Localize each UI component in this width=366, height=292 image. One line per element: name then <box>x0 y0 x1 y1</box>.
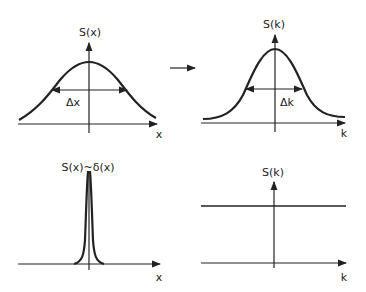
panel-top-left <box>18 43 157 133</box>
top-right-ylabel: S(k) <box>263 18 285 31</box>
bottom-left-ylabel: S(x)~δ(x) <box>61 161 114 174</box>
gaussian-curve <box>203 49 345 119</box>
top-left-width-label: Δx <box>66 96 80 109</box>
diagram-canvas <box>0 0 366 292</box>
top-left-xlabel: x <box>156 128 163 141</box>
bottom-right-xlabel: k <box>341 271 347 284</box>
panel-bottom-right <box>201 182 346 268</box>
top-right-xlabel: k <box>341 127 347 140</box>
bottom-left-xlabel: x <box>156 271 163 284</box>
gaussian-curve <box>19 62 156 120</box>
bottom-right-ylabel: S(k) <box>262 166 284 179</box>
fourier-diagram: S(x) x Δx S(k) k Δk S(x)~δ(x) x S(k) k <box>0 0 366 292</box>
panel-bottom-left <box>18 172 160 270</box>
top-right-width-label: Δk <box>280 96 294 109</box>
top-left-ylabel: S(x) <box>79 26 101 39</box>
panel-top-right <box>201 35 345 132</box>
